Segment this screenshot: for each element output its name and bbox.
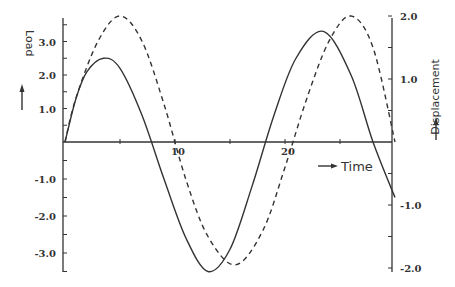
left-tick-label: -1.0 bbox=[34, 174, 56, 185]
load-series-line bbox=[65, 31, 395, 272]
x-tick-label: 20 bbox=[281, 146, 295, 157]
right-tick-label: 2.0 bbox=[400, 11, 417, 22]
right-tick-label: -1.0 bbox=[400, 200, 422, 211]
left-tick-label: -3.0 bbox=[34, 248, 56, 259]
up-arrow-icon bbox=[20, 84, 25, 110]
right-y-ticks: 2.01.0-1.0-2.0 bbox=[388, 11, 422, 274]
x-axis-title: Time bbox=[340, 159, 373, 174]
left-tick-label: 1.0 bbox=[39, 104, 56, 115]
right-arrow-icon bbox=[318, 164, 338, 169]
load-displacement-chart: 3.02.01.0-1.0-2.0-3.0 2.01.0-1.0-2.0 102… bbox=[0, 0, 455, 287]
right-tick-label: 1.0 bbox=[400, 74, 417, 85]
right-tick-label: -2.0 bbox=[400, 263, 422, 274]
left-tick-label: 2.0 bbox=[39, 70, 56, 81]
left-y-ticks: 3.02.01.0-1.0-2.0-3.0 bbox=[34, 25, 67, 272]
left-axis-title: Load bbox=[23, 30, 36, 56]
left-tick-label: 3.0 bbox=[39, 37, 56, 48]
left-tick-label: -2.0 bbox=[34, 211, 56, 222]
